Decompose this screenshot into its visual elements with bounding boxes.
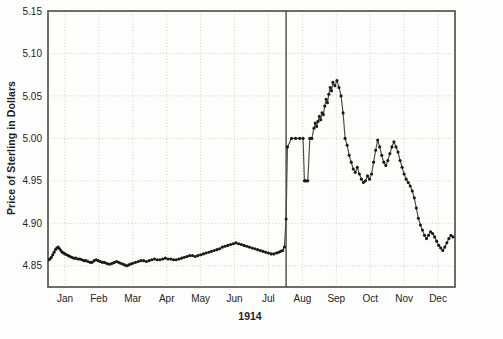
data-point xyxy=(441,249,444,252)
data-point xyxy=(169,257,172,260)
x-tick-label: Oct xyxy=(362,293,378,304)
data-point xyxy=(356,166,359,169)
data-point xyxy=(156,258,159,261)
data-point xyxy=(358,173,361,176)
data-point xyxy=(329,86,332,89)
data-point xyxy=(148,259,151,262)
data-point xyxy=(306,179,309,182)
data-point xyxy=(378,145,381,148)
x-tick-label: Jan xyxy=(57,293,73,304)
data-point xyxy=(384,164,387,167)
data-point xyxy=(199,253,202,256)
data-point xyxy=(131,262,134,265)
data-point xyxy=(327,93,330,96)
data-point xyxy=(344,137,347,140)
data-point xyxy=(350,161,353,164)
x-tick-label: Nov xyxy=(395,293,413,304)
data-point xyxy=(264,251,267,254)
data-point xyxy=(229,243,232,246)
x-tick-label: Sep xyxy=(327,293,345,304)
data-point xyxy=(245,245,248,248)
x-tick-label: Jun xyxy=(226,293,242,304)
x-tick-label: May xyxy=(191,293,210,304)
x-tick-label: Mar xyxy=(124,293,142,304)
data-point xyxy=(331,81,334,84)
data-point xyxy=(366,174,369,177)
data-point xyxy=(335,79,338,82)
chart-figure: 4.854.904.955.005.055.105.15 JanFebMarAp… xyxy=(0,0,503,339)
data-point xyxy=(272,252,275,255)
data-point xyxy=(323,105,326,108)
data-point xyxy=(251,246,254,249)
data-point xyxy=(213,249,216,252)
data-point xyxy=(218,247,221,250)
data-point xyxy=(215,248,218,251)
data-point xyxy=(226,244,229,247)
data-point xyxy=(322,113,325,116)
data-point xyxy=(240,243,243,246)
data-point xyxy=(348,154,351,157)
data-point xyxy=(392,140,395,143)
data-point xyxy=(423,234,426,237)
data-point xyxy=(207,251,210,254)
data-point xyxy=(413,196,416,199)
data-point xyxy=(405,178,408,181)
data-point xyxy=(137,260,140,263)
data-point xyxy=(153,257,156,260)
data-point xyxy=(421,229,424,232)
data-point xyxy=(183,256,186,259)
clipped-caption xyxy=(46,334,486,339)
data-point xyxy=(370,173,373,176)
data-point xyxy=(431,232,434,235)
data-point xyxy=(310,137,313,140)
data-point xyxy=(302,137,305,140)
data-point xyxy=(368,178,371,181)
data-point xyxy=(411,189,414,192)
data-point xyxy=(451,235,454,238)
data-point xyxy=(382,161,385,164)
data-point xyxy=(253,247,256,250)
data-point xyxy=(342,111,345,114)
data-point xyxy=(380,154,383,157)
data-point xyxy=(417,217,420,220)
data-point xyxy=(447,237,450,240)
data-point xyxy=(177,257,180,260)
y-tick-label: 4.85 xyxy=(23,260,43,271)
data-point xyxy=(433,235,436,238)
data-point xyxy=(419,223,422,226)
x-tick-label: Apr xyxy=(159,293,175,304)
y-tick-label: 5.05 xyxy=(23,91,43,102)
data-point xyxy=(337,86,340,89)
data-point xyxy=(435,240,438,243)
data-point xyxy=(319,118,322,121)
data-point xyxy=(172,258,175,261)
data-point xyxy=(401,166,404,169)
data-point xyxy=(364,179,367,182)
data-point xyxy=(352,167,355,170)
data-point xyxy=(315,125,318,128)
data-point xyxy=(437,244,440,247)
data-point xyxy=(396,150,399,153)
x-tick-label: Jul xyxy=(262,293,275,304)
data-point xyxy=(445,241,448,244)
y-tick-label: 5.00 xyxy=(23,133,43,144)
data-point xyxy=(261,250,264,253)
data-point xyxy=(298,137,301,140)
data-point xyxy=(145,260,148,263)
data-point xyxy=(232,242,235,245)
data-point xyxy=(394,145,397,148)
y-tick-label: 5.15 xyxy=(23,6,43,17)
data-point xyxy=(415,206,418,209)
data-point xyxy=(290,137,293,140)
data-point xyxy=(259,249,262,252)
data-point xyxy=(196,254,199,257)
data-point xyxy=(134,261,137,264)
data-point xyxy=(205,251,208,254)
y-axis-title: Price of Sterling in Dollars xyxy=(5,80,17,214)
data-point xyxy=(330,89,333,92)
data-point xyxy=(425,237,428,240)
data-point xyxy=(142,259,145,262)
data-point xyxy=(443,246,446,249)
data-point xyxy=(158,258,161,261)
data-point xyxy=(191,254,194,257)
